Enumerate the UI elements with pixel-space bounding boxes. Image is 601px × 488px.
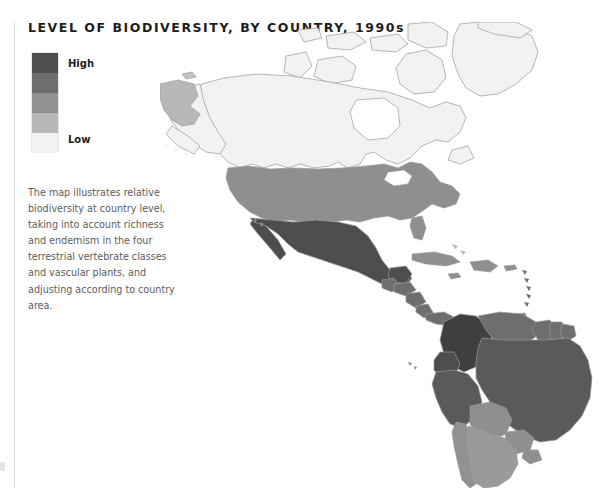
left-margin-rule: [14, 22, 15, 488]
island-cuba: [412, 252, 460, 266]
country-united-states: [226, 162, 460, 222]
map-canvas: [160, 22, 601, 488]
legend-swatch-high: [32, 53, 58, 73]
map-caption: The map illustrates relative biodiversit…: [28, 185, 180, 314]
island-puerto-rico: [504, 265, 517, 271]
legend-label-high: High: [68, 58, 94, 69]
island-ellesmere: [408, 22, 448, 48]
island-arctic-small-a: [298, 28, 322, 42]
island-baffin: [396, 50, 446, 94]
island-wrangel: [182, 72, 196, 79]
island-victoria: [314, 56, 356, 84]
atlas-page: LEVEL OF BIODIVERSITY, BY COUNTRY, 1990s…: [0, 0, 601, 488]
island-devon: [370, 34, 408, 52]
legend-swatch-medium-low: [32, 113, 58, 133]
legend-swatch-medium-high: [32, 73, 58, 93]
island-banks: [284, 52, 312, 78]
florida-peninsula: [410, 216, 426, 240]
legend-swatch-medium: [32, 93, 58, 113]
legend-gradient-bar: [31, 52, 59, 152]
island-galapagos: [408, 362, 417, 370]
island-jamaica: [448, 273, 461, 279]
island-bahamas: [452, 244, 466, 255]
page-edge-mark: [0, 462, 5, 471]
legend-swatch-low: [32, 133, 58, 153]
island-newfoundland: [448, 146, 474, 164]
island-hispaniola: [470, 260, 498, 272]
lesser-antilles: [522, 270, 531, 307]
country-uruguay: [522, 450, 542, 464]
island-melville: [326, 32, 366, 50]
americas-choropleth-svg: [160, 22, 601, 488]
legend-label-low: Low: [68, 134, 90, 145]
